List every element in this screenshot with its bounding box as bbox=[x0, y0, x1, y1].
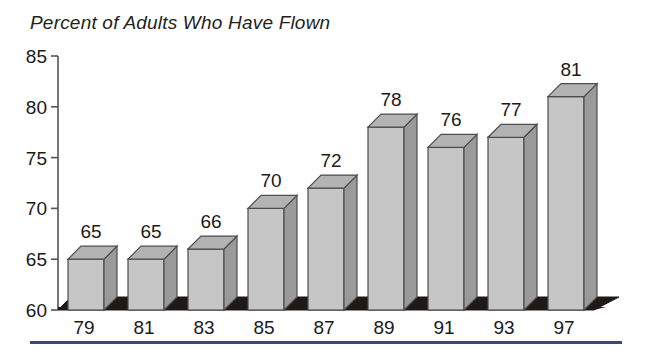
bar-value-label: 70 bbox=[260, 170, 281, 191]
bar-column bbox=[488, 124, 537, 310]
bar-value-label: 81 bbox=[560, 59, 581, 80]
bar-front-face bbox=[428, 147, 464, 310]
bar-value-label: 65 bbox=[80, 221, 101, 242]
x-tick-label: 81 bbox=[133, 317, 154, 338]
bar-side-face bbox=[344, 175, 357, 310]
bar-value-label: 77 bbox=[500, 99, 521, 120]
bar-column bbox=[308, 175, 357, 310]
y-tick-label: 60 bbox=[26, 300, 47, 321]
bar-front-face bbox=[248, 208, 284, 310]
x-tick-label: 91 bbox=[433, 317, 454, 338]
x-tick-label: 89 bbox=[373, 317, 394, 338]
bar-column bbox=[188, 236, 237, 310]
bar-column bbox=[248, 195, 297, 310]
bar-value-label: 72 bbox=[320, 150, 341, 171]
bar-value-label: 76 bbox=[440, 109, 461, 130]
bar-side-face bbox=[524, 124, 537, 310]
bar-value-label: 66 bbox=[200, 211, 221, 232]
bar-value-label: 78 bbox=[380, 89, 401, 110]
bar-front-face bbox=[128, 259, 164, 310]
y-axis: 606570758085 bbox=[26, 46, 58, 321]
bar-column bbox=[68, 246, 117, 310]
bar-front-face bbox=[308, 188, 344, 310]
bar-side-face bbox=[464, 134, 477, 310]
bar-front-face bbox=[488, 137, 524, 310]
y-tick-label: 75 bbox=[26, 148, 47, 169]
bar-side-face bbox=[404, 114, 417, 310]
y-tick-label: 85 bbox=[26, 46, 47, 67]
chart-figure: Percent of Adults Who Have Flown 6065707… bbox=[0, 0, 653, 358]
x-tick-label: 83 bbox=[193, 317, 214, 338]
x-tick-label: 79 bbox=[73, 317, 94, 338]
x-tick-label: 93 bbox=[493, 317, 514, 338]
x-tick-label: 87 bbox=[313, 317, 334, 338]
y-tick-label: 70 bbox=[26, 198, 47, 219]
bottom-rule-divider bbox=[30, 341, 622, 344]
bar-front-face bbox=[188, 249, 224, 310]
bar-chart-plot: 606570758085 656566707278767781 79818385… bbox=[0, 0, 653, 358]
bar-front-face bbox=[548, 97, 584, 310]
bar-column bbox=[548, 84, 597, 310]
x-tick-label: 97 bbox=[553, 317, 574, 338]
bar-side-face bbox=[584, 84, 597, 310]
bar-column bbox=[368, 114, 417, 310]
y-tick-label: 80 bbox=[26, 97, 47, 118]
bar-series: 656566707278767781 bbox=[68, 59, 597, 310]
x-tick-label: 85 bbox=[253, 317, 274, 338]
bar-column bbox=[428, 134, 477, 310]
x-axis: 798183858789919397 bbox=[73, 317, 574, 338]
bar-front-face bbox=[368, 127, 404, 310]
bar-side-face bbox=[284, 195, 297, 310]
y-tick-label: 65 bbox=[26, 249, 47, 270]
bar-front-face bbox=[68, 259, 104, 310]
bar-column bbox=[128, 246, 177, 310]
bar-value-label: 65 bbox=[140, 221, 161, 242]
